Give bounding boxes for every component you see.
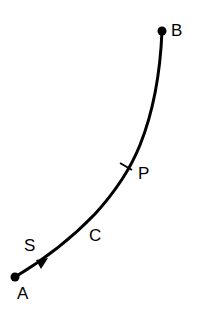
point-b-dot — [158, 27, 167, 36]
label-s: S — [24, 236, 35, 255]
label-c: C — [89, 226, 101, 245]
label-a: A — [17, 284, 29, 303]
point-a-dot — [11, 273, 20, 282]
path-curve-diagram: B P C S A — [0, 0, 199, 317]
label-b: B — [171, 21, 182, 40]
label-p: P — [138, 164, 149, 183]
